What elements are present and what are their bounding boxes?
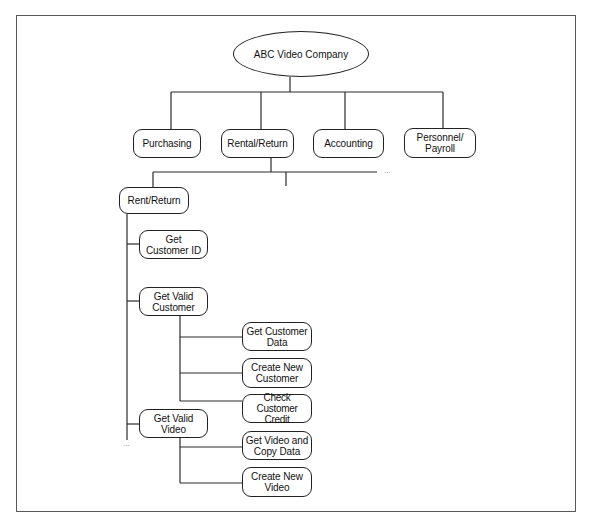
node-get-customer-data: Get Customer Data xyxy=(242,322,312,351)
root-node-label: ABC Video Company xyxy=(254,49,348,60)
root-node-abc-video-company: ABC Video Company xyxy=(233,31,369,77)
node-check-customer-credit: Check Customer Credit xyxy=(242,394,312,423)
node-create-new-customer: Create New Customer xyxy=(242,358,312,388)
node-rent-return: Rent/Return xyxy=(119,187,189,214)
node-accounting: Accounting xyxy=(313,129,384,158)
more-siblings-ellipsis: ... xyxy=(384,167,391,175)
node-get-valid-customer: Get Valid Customer xyxy=(139,287,208,316)
node-personnel-payroll: Personnel/ Payroll xyxy=(404,128,476,158)
node-rental-return: Rental/Return xyxy=(221,129,294,158)
node-get-video-and-copy-data: Get Video and Copy Data xyxy=(242,431,312,460)
node-get-valid-video: Get Valid Video xyxy=(139,409,208,438)
more-children-ellipsis: ... xyxy=(123,440,130,448)
node-create-new-video: Create New Video xyxy=(242,467,312,497)
node-get-customer-id: Get Customer ID xyxy=(139,230,208,259)
node-purchasing: Purchasing xyxy=(133,129,201,158)
